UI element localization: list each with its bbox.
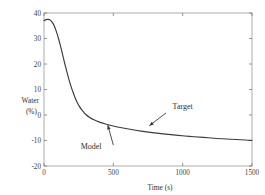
y-tick-label: 40	[34, 10, 42, 18]
chart-figure: 403020100-10-20 050010001500 Water (%) T…	[0, 0, 265, 195]
y-tick-label: 0	[37, 112, 41, 120]
x-tick-label: 0	[42, 169, 46, 177]
y-axis-label-line2: (%)	[26, 107, 38, 116]
y-tick-label: 10	[34, 86, 42, 94]
x-tick-label: 500	[108, 169, 119, 177]
annotation-label-target: Target	[173, 102, 194, 111]
y-axis-label-line1: Water	[22, 96, 40, 105]
y-tick-label: 20	[34, 61, 42, 69]
y-tick-label: -10	[31, 137, 41, 145]
y-tick-label: -20	[31, 163, 41, 171]
water-time-line-chart: 403020100-10-20 050010001500 Water (%) T…	[0, 0, 265, 195]
y-tick-label: 30	[34, 35, 42, 43]
annotation-label-model: Model	[81, 142, 103, 151]
x-tick-label: 1500	[245, 169, 260, 177]
x-tick-label: 1000	[175, 169, 190, 177]
x-axis-label: Time (s)	[148, 183, 174, 192]
